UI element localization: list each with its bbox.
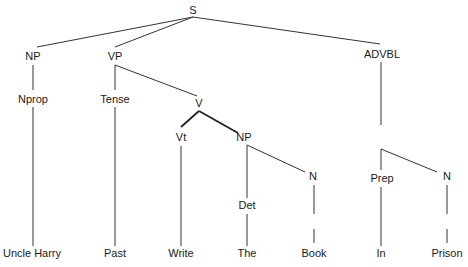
node-w5: Book bbox=[301, 247, 327, 259]
node-vp: VP bbox=[108, 50, 123, 62]
node-tense: Tense bbox=[100, 93, 129, 105]
node-s: S bbox=[189, 4, 196, 16]
edge-s-vp bbox=[115, 17, 193, 47]
node-v: V bbox=[195, 97, 203, 109]
edge-s-np1 bbox=[37, 17, 193, 47]
node-w3: Write bbox=[168, 247, 193, 259]
node-n1: N bbox=[309, 170, 317, 182]
node-w4: The bbox=[238, 247, 257, 259]
edge-s-advbl bbox=[193, 17, 380, 44]
edge-np2-n1 bbox=[247, 145, 305, 172]
node-vt: Vt bbox=[176, 131, 186, 143]
tree-node-labels: SNPVPADVBLNpropTenseVVtNPDetNPrepNUncle … bbox=[3, 4, 463, 259]
node-prep: Prep bbox=[370, 172, 393, 184]
node-w7: Prison bbox=[431, 247, 462, 259]
edge-v-np2 bbox=[199, 111, 238, 133]
syntax-tree-diagram: SNPVPADVBLNpropTenseVVtNPDetNPrepNUncle … bbox=[0, 0, 468, 267]
edge-pp-n2 bbox=[381, 149, 437, 172]
node-n2: N bbox=[443, 170, 451, 182]
edge-vp-v bbox=[115, 65, 197, 96]
node-advbl: ADVBL bbox=[364, 48, 400, 60]
node-w1: Uncle Harry bbox=[3, 247, 62, 259]
node-nprop: Nprop bbox=[18, 93, 48, 105]
node-np1: NP bbox=[25, 50, 40, 62]
edge-v-vt bbox=[181, 111, 199, 127]
node-det: Det bbox=[238, 199, 255, 211]
node-w2: Past bbox=[104, 247, 126, 259]
node-np2: NP bbox=[236, 131, 251, 143]
node-w6: In bbox=[376, 247, 385, 259]
